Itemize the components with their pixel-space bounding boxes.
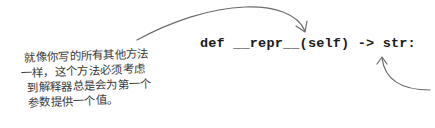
handwritten-annotation: 就像你写的所有其他方法 一样，这个方法必须考虑 到解释器总是会为第一个 参数提供… — [20, 46, 162, 111]
code-signature: def __repr__(self) -> str: — [200, 36, 416, 51]
annotated-code-figure: 就像你写的所有其他方法 一样，这个方法必须考虑 到解释器总是会为第一个 参数提供… — [0, 0, 435, 128]
arrow-to-str-icon — [377, 57, 430, 90]
